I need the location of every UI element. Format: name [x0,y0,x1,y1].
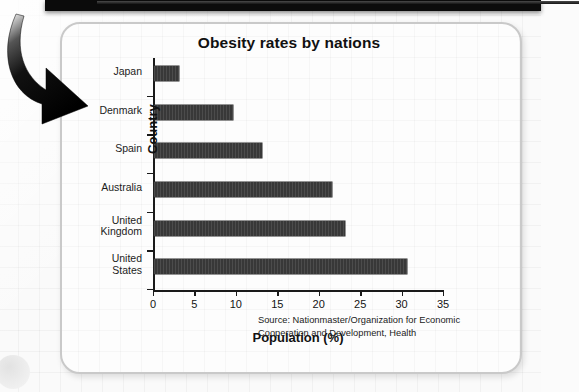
bar-row: Australia [153,174,443,213]
x-axis-tick [402,290,403,296]
x-axis-tick [236,290,237,296]
x-axis-tick-label: 20 [313,298,325,310]
x-axis-tick-label: 5 [191,298,197,310]
plot-area: JapanDenmarkSpainAustraliaUnited Kingdom… [153,58,443,290]
category-label: Australia [56,182,142,194]
category-label: Japan [56,66,142,78]
bar [154,66,179,81]
x-axis-tick-label: 10 [230,298,242,310]
bar-row: United Kingdom [153,213,443,252]
source-note: Source: Nationmaster/Organization for Ec… [258,314,498,340]
category-label: United States [56,253,142,276]
bar-chart: Obesity rates by nations JapanDenmarkSpa… [60,22,518,370]
bar-row: Spain [153,135,443,174]
category-label: Spain [56,143,142,155]
chart-title: Obesity rates by nations [60,34,518,52]
x-axis-line [153,290,443,292]
x-axis-tick [443,290,444,296]
x-axis-tick [153,290,154,296]
bar [154,259,407,274]
x-axis-tick [277,290,278,296]
bar-row: Denmark [153,97,443,136]
source-line-2: Cooperation and Development, Health [258,327,498,340]
x-axis-tick-label: 30 [395,298,407,310]
x-axis-tick-label: 25 [354,298,366,310]
x-axis-tick [360,290,361,296]
bar [154,105,233,120]
bar [154,143,262,158]
y-axis-title: Country [145,104,160,154]
bar-row: United States [153,251,443,290]
x-axis-tick [319,290,320,296]
x-axis-tick-label: 15 [271,298,283,310]
bar [154,182,332,197]
bar-row: Japan [153,58,443,97]
bar [154,221,345,236]
x-axis-tick-label: 0 [150,298,156,310]
top-band-highlight [97,1,579,4]
source-line-1: Source: Nationmaster/Organization for Ec… [258,314,498,327]
x-axis-tick-label: 35 [437,298,449,310]
category-label: Denmark [56,105,142,117]
category-label: United Kingdom [56,215,142,238]
x-axis-tick [194,290,195,296]
page-top-black-band [45,0,541,11]
